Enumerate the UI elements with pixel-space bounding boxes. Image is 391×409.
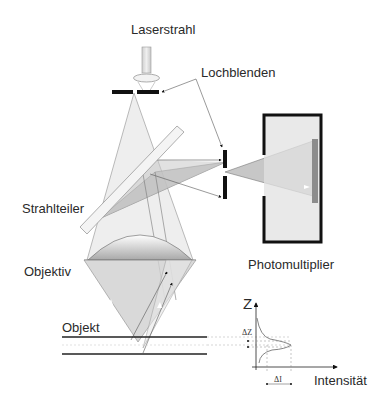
label-beam-splitter: Strahlteiler — [22, 202, 84, 215]
laser-source — [134, 47, 160, 92]
pinhole-top — [112, 90, 159, 94]
graph-delta-z-label: ΔZ — [242, 329, 252, 337]
graph-x-axis-label: Intensität — [314, 374, 367, 387]
graph-delta-i-label: ΔI — [274, 376, 282, 384]
label-objective: Objektiv — [24, 265, 71, 278]
label-detector: Photomultiplier — [248, 258, 334, 271]
pinhole-right — [223, 150, 227, 199]
graph-z-axis-label: Z — [243, 296, 252, 311]
label-laser: Laserstrahl — [131, 23, 195, 36]
label-object: Objekt — [62, 321, 100, 334]
label-pinholes: Lochblenden — [201, 66, 275, 79]
focusing-cone — [84, 260, 196, 353]
photomultiplier — [264, 115, 321, 242]
